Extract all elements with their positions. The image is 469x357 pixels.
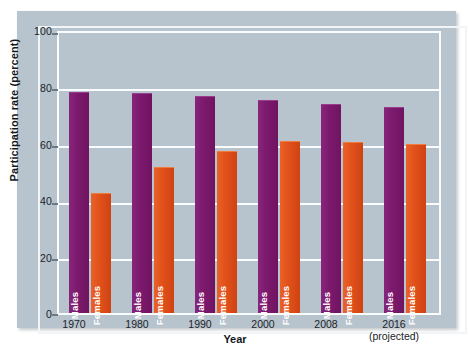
y-tick-label-20: 20: [14, 252, 52, 264]
x-axis-title: Year: [175, 333, 295, 345]
bar-label-males: Males: [259, 291, 269, 318]
chart-figure: Participation rate (percent) 100 80 60 4…: [0, 0, 469, 357]
bar-males-1980[interactable]: Males: [132, 93, 152, 313]
y-tickmark-0: [52, 314, 58, 316]
bar-face: [69, 92, 89, 313]
bar-females-1980[interactable]: Females: [154, 167, 174, 313]
y-tickmark-40: [52, 203, 58, 205]
bar-group-2000: Males Females: [258, 33, 300, 313]
x-tick-label-1990: 1990: [168, 318, 232, 330]
bar-face: [195, 96, 215, 313]
bar-label-males: Males: [70, 291, 80, 318]
bar-group-2016: Males Females: [384, 33, 426, 313]
x-tick-label-1970: 1970: [42, 318, 106, 330]
y-tick-label-80: 80: [14, 82, 52, 94]
bar-females-2000[interactable]: Females: [280, 141, 300, 313]
bar-females-1970[interactable]: Females: [91, 193, 111, 313]
bar-group-1980: Males Females: [132, 33, 174, 313]
y-tickmark-20: [52, 259, 58, 261]
bar-label-males: Males: [196, 291, 206, 318]
bar-males-2016[interactable]: Males: [384, 107, 404, 313]
y-tick-label-40: 40: [14, 195, 52, 207]
bar-group-2008: Males Females: [321, 33, 363, 313]
x-tick-year: 2000: [251, 318, 274, 330]
gridline-60: [59, 146, 439, 148]
y-tickmark-100: [52, 33, 58, 35]
bar-face: [258, 100, 278, 313]
x-tick-year: 1990: [188, 318, 211, 330]
x-tick-year: 2008: [314, 318, 337, 330]
bar-face: [321, 104, 341, 313]
bar-females-2016[interactable]: Females: [406, 144, 426, 313]
bar-face: [384, 107, 404, 313]
x-tick-sublabel: (projected): [357, 330, 431, 342]
bar-label-males: Males: [133, 291, 143, 318]
bar-males-1970[interactable]: Males: [69, 92, 89, 313]
bar-males-1990[interactable]: Males: [195, 96, 215, 313]
x-tick-year: 2016: [382, 318, 405, 330]
gridline-80: [59, 89, 439, 91]
x-tick-year: 1980: [125, 318, 148, 330]
x-tick-label-2000: 2000: [231, 318, 295, 330]
y-tickmark-60: [52, 146, 58, 148]
bar-label-males: Males: [322, 291, 332, 318]
x-tick-label-2016: 2016 (projected): [357, 318, 431, 342]
bar-males-2000[interactable]: Males: [258, 100, 278, 313]
x-tick-label-1980: 1980: [105, 318, 169, 330]
plot-area: Males Females Males Females Males: [57, 31, 441, 315]
bar-females-1990[interactable]: Females: [217, 151, 237, 313]
bar-males-2008[interactable]: Males: [321, 104, 341, 313]
x-tick-label-2008: 2008: [294, 318, 358, 330]
bar-label-males: Males: [385, 291, 395, 318]
bar-females-2008[interactable]: Females: [343, 142, 363, 313]
bar-face: [132, 93, 152, 313]
y-tick-label-60: 60: [14, 139, 52, 151]
bar-group-1990: Males Females: [195, 33, 237, 313]
gridline-20: [59, 259, 439, 261]
bar-group-1970: Males Females: [69, 33, 111, 313]
y-tick-label-100: 100: [14, 25, 52, 37]
x-tick-year: 1970: [62, 318, 85, 330]
gridline-40: [59, 203, 439, 205]
y-tickmark-80: [52, 89, 58, 91]
